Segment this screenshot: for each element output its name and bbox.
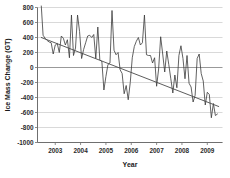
- ytick-label--800: -800: [21, 124, 34, 131]
- xtick-label-2007: 2007: [150, 147, 165, 154]
- xtick-label-2004: 2004: [73, 147, 88, 154]
- y-axis-title: Ice Mass Change (GT): [4, 38, 12, 111]
- ytick-label--400: -400: [21, 94, 34, 101]
- xtick-label-2005: 2005: [99, 147, 114, 154]
- xtick-label-2008: 2008: [175, 147, 190, 154]
- xtick-label-2006: 2006: [124, 147, 139, 154]
- xtick-label-2003: 2003: [48, 147, 63, 154]
- ytick-label--200: -200: [21, 79, 34, 86]
- x-axis-title: Year: [123, 161, 138, 168]
- ytick-label-800: 800: [23, 4, 34, 11]
- xtick-label-2009: 2009: [200, 147, 215, 154]
- ytick-label--1000: -1000: [17, 139, 34, 146]
- chart-canvas: 8006004002000-200-400-600-800-1000200320…: [0, 0, 230, 178]
- ytick-label-0: 0: [30, 64, 34, 71]
- ice-mass-change-chart: 8006004002000-200-400-600-800-1000200320…: [0, 0, 230, 178]
- ytick-label--600: -600: [21, 109, 34, 116]
- ytick-label-400: 400: [23, 34, 34, 41]
- ytick-label-200: 200: [23, 49, 34, 56]
- ytick-label-600: 600: [23, 19, 34, 26]
- plot-background: [38, 8, 223, 143]
